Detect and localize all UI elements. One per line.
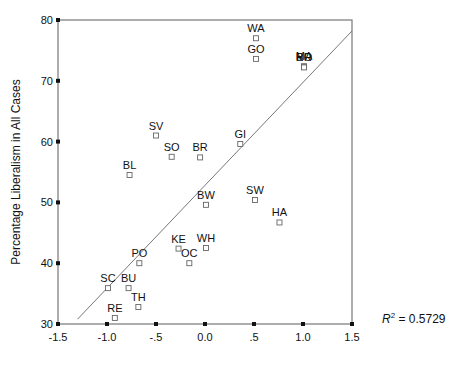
point-label: HA bbox=[272, 206, 288, 218]
square-marker-icon bbox=[105, 286, 110, 291]
y-tick-mark bbox=[56, 140, 60, 144]
x-tick-mark bbox=[203, 322, 207, 326]
square-marker-icon bbox=[253, 36, 258, 41]
x-axis: -1.5-1.0-.50.0.51.01.5 bbox=[49, 322, 360, 343]
data-point: BU bbox=[121, 272, 136, 291]
x-tick-label: .5 bbox=[249, 331, 258, 343]
square-marker-icon bbox=[301, 65, 306, 70]
point-label: BL bbox=[123, 159, 136, 171]
point-label: WH bbox=[197, 232, 215, 244]
point-label: RO bbox=[296, 51, 313, 63]
data-point: OC bbox=[181, 247, 198, 266]
y-tick-mark bbox=[56, 79, 60, 83]
data-point: BL bbox=[123, 159, 136, 178]
square-marker-icon bbox=[238, 142, 243, 147]
data-point: BR bbox=[192, 141, 207, 160]
x-tick-mark bbox=[252, 322, 256, 326]
r2-value: = 0.5729 bbox=[395, 312, 446, 326]
y-tick-label: 70 bbox=[41, 75, 53, 87]
data-point: RE bbox=[107, 302, 122, 321]
square-marker-icon bbox=[136, 304, 141, 309]
point-label: SO bbox=[164, 141, 180, 153]
square-marker-icon bbox=[169, 154, 174, 159]
data-point: WA bbox=[247, 22, 265, 41]
y-tick-label: 60 bbox=[41, 136, 53, 148]
square-marker-icon bbox=[112, 315, 117, 320]
square-marker-icon bbox=[154, 133, 159, 138]
data-point: WH bbox=[197, 232, 215, 251]
y-tick-mark bbox=[56, 261, 60, 265]
square-marker-icon bbox=[203, 202, 208, 207]
point-label: GI bbox=[234, 128, 246, 140]
point-label: BU bbox=[121, 272, 136, 284]
square-marker-icon bbox=[127, 173, 132, 178]
y-axis: 304050607080 bbox=[41, 14, 60, 330]
data-point: SO bbox=[164, 141, 180, 160]
point-label: BR bbox=[192, 141, 207, 153]
x-tick-label: -1.0 bbox=[98, 331, 117, 343]
x-tick-label: 1.0 bbox=[295, 331, 310, 343]
square-marker-icon bbox=[203, 246, 208, 251]
data-point: SW bbox=[246, 184, 264, 203]
square-marker-icon bbox=[126, 286, 131, 291]
x-tick-mark bbox=[105, 322, 109, 326]
data-point: SV bbox=[149, 120, 164, 139]
point-label: PO bbox=[131, 247, 147, 259]
point-label: BW bbox=[197, 189, 215, 201]
x-tick-label: -1.5 bbox=[49, 331, 68, 343]
r2-symbol: R bbox=[382, 312, 391, 326]
point-label: OC bbox=[181, 247, 198, 259]
scatter-chart: -1.5-1.0-.50.0.51.01.5 304050607080 Perc… bbox=[0, 0, 453, 366]
square-marker-icon bbox=[252, 197, 257, 202]
y-tick-label: 80 bbox=[41, 14, 53, 26]
y-tick-mark bbox=[56, 18, 60, 22]
point-label: GO bbox=[247, 43, 265, 55]
square-marker-icon bbox=[253, 56, 258, 61]
square-marker-icon bbox=[137, 261, 142, 266]
y-axis-label: Percentage Liberalism in All Cases bbox=[9, 79, 23, 264]
x-tick-label: 1.5 bbox=[344, 331, 359, 343]
y-tick-label: 40 bbox=[41, 257, 53, 269]
x-tick-label: 0.0 bbox=[197, 331, 212, 343]
point-label: SC bbox=[100, 272, 115, 284]
regression-line bbox=[78, 31, 352, 319]
data-point: PO bbox=[131, 247, 147, 266]
y-tick-mark bbox=[56, 322, 60, 326]
y-tick-mark bbox=[56, 200, 60, 204]
data-point: HA bbox=[272, 206, 288, 225]
data-points: WAGOMABRROSVGISOBRBLSWBWHAWHKEOCPOSCBUTH… bbox=[100, 22, 313, 320]
square-marker-icon bbox=[277, 220, 282, 225]
point-label: SV bbox=[149, 120, 164, 132]
x-tick-mark bbox=[154, 322, 158, 326]
point-label: TH bbox=[131, 291, 146, 303]
data-point: TH bbox=[131, 291, 146, 310]
x-tick-mark bbox=[301, 322, 305, 326]
point-label: KE bbox=[171, 233, 186, 245]
point-label: RE bbox=[107, 302, 122, 314]
data-point: BW bbox=[197, 189, 215, 208]
y-tick-label: 50 bbox=[41, 196, 53, 208]
x-tick-label: -.5 bbox=[150, 331, 163, 343]
data-point: GO bbox=[247, 43, 265, 62]
point-label: WA bbox=[247, 22, 265, 34]
square-marker-icon bbox=[198, 155, 203, 160]
y-tick-label: 30 bbox=[41, 318, 53, 330]
square-marker-icon bbox=[187, 261, 192, 266]
point-label: SW bbox=[246, 184, 264, 196]
r-squared-annotation: R2 = 0.5729 bbox=[382, 311, 446, 326]
data-point: RO bbox=[296, 51, 313, 70]
data-point: SC bbox=[100, 272, 115, 291]
x-tick-mark bbox=[350, 322, 354, 326]
